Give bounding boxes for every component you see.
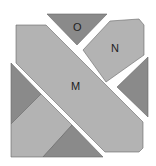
label-o: O xyxy=(73,21,82,33)
dissection-diagram: O N M xyxy=(0,0,156,166)
label-m: M xyxy=(71,80,80,92)
label-n: N xyxy=(111,42,119,54)
